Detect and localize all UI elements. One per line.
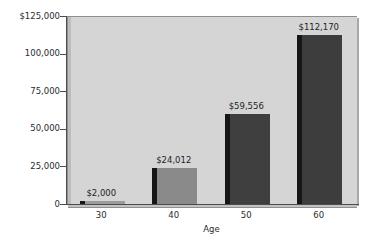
y-axis-tick (60, 204, 66, 205)
y-axis-tick-label-wrap: $125,000 (0, 12, 60, 21)
x-axis-tick-label: 40 (152, 210, 196, 220)
y-axis-tick-label: 50,000 (2, 124, 60, 133)
x-axis-tick-label: 30 (79, 210, 123, 220)
y-axis-tick-label: 0 (2, 200, 60, 209)
y-axis-tick (60, 129, 66, 130)
bar-chart: 025,00050,00075,000100,000$125,000 30405… (0, 0, 371, 239)
bar (297, 35, 337, 204)
bar-value-label: $24,012 (144, 155, 204, 165)
y-axis-tick-label-wrap: 75,000 (0, 87, 60, 96)
x-axis-tick-label: 60 (297, 210, 341, 220)
y-axis-tick (60, 16, 66, 17)
x-axis-line (66, 204, 359, 205)
bar (152, 168, 192, 204)
plot-area (67, 16, 357, 204)
bar-value-label: $59,556 (216, 101, 276, 111)
y-axis-tick-label-wrap: 100,000 (0, 49, 60, 58)
y-axis-tick-label: $125,000 (2, 12, 60, 21)
y-axis-tick-label-wrap: 25,000 (0, 162, 60, 171)
bar-value-label: $2,000 (71, 188, 131, 198)
bar (225, 114, 265, 204)
y-axis-line (66, 16, 67, 205)
bar-front-face (230, 114, 270, 204)
y-axis-tick-label: 75,000 (2, 87, 60, 96)
y-axis-tick-label: 25,000 (2, 162, 60, 171)
bar-front-face (302, 35, 342, 204)
x-axis-title-label: Age (151, 224, 219, 234)
x-axis-tick-label: 50 (224, 210, 268, 220)
y-axis-tick-label-wrap: 50,000 (0, 124, 60, 133)
bar-front-face (157, 168, 197, 204)
y-axis-tick (60, 91, 66, 92)
x-axis-title: Age (0, 224, 371, 234)
y-axis-tick (60, 54, 66, 55)
bar-value-label: $112,170 (289, 22, 349, 32)
plot-wall-left (68, 17, 71, 204)
y-axis-tick (60, 166, 66, 167)
y-axis-tick-label: 100,000 (2, 49, 60, 58)
y-axis-tick-label-wrap: 0 (0, 200, 60, 209)
